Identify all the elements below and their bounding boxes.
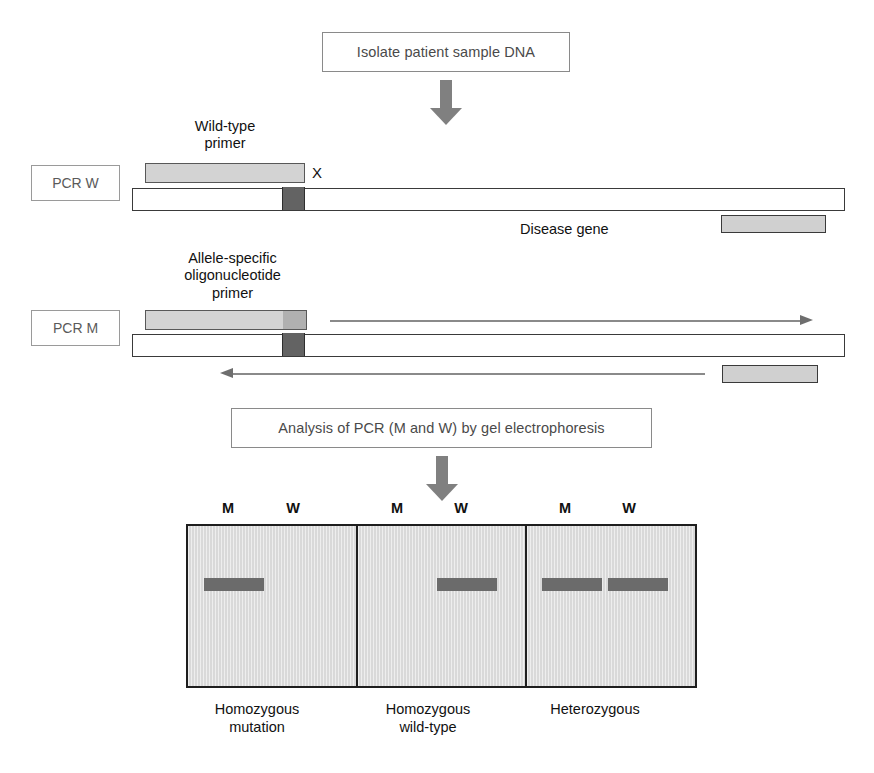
forward-extension-arrow-head xyxy=(800,315,813,325)
disease-gene-label: Disease gene xyxy=(520,221,609,237)
gel-panel-homozygous-mutation xyxy=(188,526,356,686)
allele-specific-primer-bar xyxy=(145,310,307,330)
genotype-label-panel1: Homozygous mutation xyxy=(167,700,347,736)
allele-specific-primer-tip xyxy=(283,311,306,329)
lane-label-panel1-m: M xyxy=(216,500,240,516)
gel-panel-heterozygous xyxy=(525,526,695,686)
reverse-extension-arrow-head xyxy=(220,368,233,378)
gel-band-panel1-m xyxy=(204,578,264,591)
disease-gene-box-m xyxy=(722,365,818,383)
gel-band-panel3-w xyxy=(608,578,668,591)
genotype-label-panel2: Homozygous wild-type xyxy=(338,700,518,736)
wild-type-primer-caption: Wild-type primer xyxy=(145,118,305,153)
isolate-dna-step-label: Isolate patient sample DNA xyxy=(357,44,535,60)
lane-label-panel2-m: M xyxy=(385,500,409,516)
pcr-w-tag-box: PCR W xyxy=(31,165,120,201)
pcr-w-tag-label: PCR W xyxy=(52,175,99,191)
lane-label-panel1-w: W xyxy=(281,500,305,516)
wild-type-primer-bar xyxy=(145,163,305,183)
allele-specific-primer-caption: Allele-specific oligonucleotide primer xyxy=(150,250,315,302)
forward-extension-arrow-line xyxy=(330,320,802,322)
gel-analysis-step-box: Analysis of PCR (M and W) by gel electro… xyxy=(231,408,652,448)
gel-band-panel2-w xyxy=(437,578,497,591)
template-dna-strand-m xyxy=(132,334,845,357)
isolate-dna-step-box: Isolate patient sample DNA xyxy=(322,32,570,72)
lane-label-panel2-w: W xyxy=(449,500,473,516)
gel-band-panel3-m xyxy=(542,578,602,591)
disease-gene-box-w xyxy=(721,215,826,233)
template-dna-strand-w xyxy=(132,188,845,211)
arrow-analysis-to-gel xyxy=(426,456,458,501)
lane-label-panel3-m: M xyxy=(553,500,577,516)
genotype-label-panel3: Heterozygous xyxy=(505,700,685,718)
gel-analysis-step-label: Analysis of PCR (M and W) by gel electro… xyxy=(278,420,604,436)
mutation-site-block-m xyxy=(282,333,305,356)
lane-label-panel3-w: W xyxy=(617,500,641,516)
mismatch-x-marker: X xyxy=(312,164,322,181)
pcr-workflow-figure: Isolate patient sample DNA PCR W Wild-ty… xyxy=(0,0,874,773)
reverse-extension-arrow-line xyxy=(233,373,705,375)
arrow-isolate-to-pcr xyxy=(430,80,462,125)
gel-electrophoresis-image xyxy=(186,524,697,688)
mutation-site-block-w xyxy=(282,187,305,210)
pcr-m-tag-box: PCR M xyxy=(31,310,120,346)
gel-panel-homozygous-wild-type xyxy=(356,526,526,686)
pcr-m-tag-label: PCR M xyxy=(53,320,98,336)
